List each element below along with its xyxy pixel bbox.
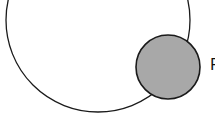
small-gray-circle [136,35,200,99]
circle-label: P [210,58,215,73]
diagram-canvas [0,0,215,113]
